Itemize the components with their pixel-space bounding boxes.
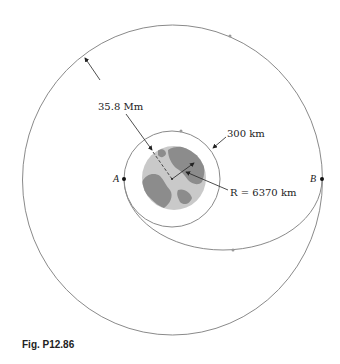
transfer-orbit-direction-marker — [232, 249, 235, 252]
inner-orbit-direction-marker — [180, 130, 183, 133]
geo-distance-label: 35.8 Mm — [98, 101, 144, 112]
earth-radius-label: R = 6370 km — [230, 187, 297, 198]
outer-orbit-direction-marker — [229, 35, 232, 38]
orbit-diagram: 35.8 Mm 300 km R = 6370 km A B — [0, 0, 340, 364]
leo-altitude-arrow — [213, 137, 226, 148]
point-b-label: B — [310, 173, 316, 184]
earth-center-point — [171, 178, 173, 180]
leo-altitude-label: 300 km — [227, 128, 265, 139]
figure-caption: Fig. P12.86 — [22, 339, 74, 350]
point-a-label: A — [112, 173, 120, 184]
point-a-dot — [122, 177, 126, 181]
point-b-dot — [320, 177, 324, 181]
geo-distance-arrow-upper — [85, 58, 100, 80]
